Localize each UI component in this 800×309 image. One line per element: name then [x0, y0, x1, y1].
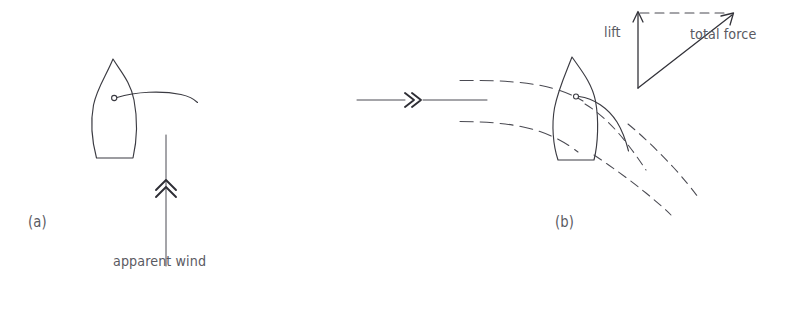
streamline-upstream-lower: [460, 122, 578, 153]
boat-hull-b: [553, 57, 598, 160]
incoming-wind-chevron-left: [405, 93, 414, 107]
panel-label-b: (b): [555, 213, 574, 231]
boat-hull-a: [92, 59, 136, 158]
panel-label-a: (a): [28, 213, 47, 231]
panel-a-group: [92, 59, 198, 266]
panel-b-group: [357, 12, 734, 216]
apparent-wind-label: apparent wind: [113, 253, 206, 269]
lift-vector-label: lift: [604, 24, 621, 40]
sail-a: [117, 92, 198, 102]
streamline-downstream-2: [628, 124, 698, 197]
total-force-vector-label: total force: [690, 26, 756, 42]
mast-circle-a: [112, 95, 117, 100]
mast-circle-b: [574, 94, 579, 99]
figure-canvas: (a) apparent wind (b) lift total force: [0, 0, 800, 309]
streamline-downstream-3: [594, 155, 671, 215]
streamline-upstream-upper: [460, 80, 583, 101]
